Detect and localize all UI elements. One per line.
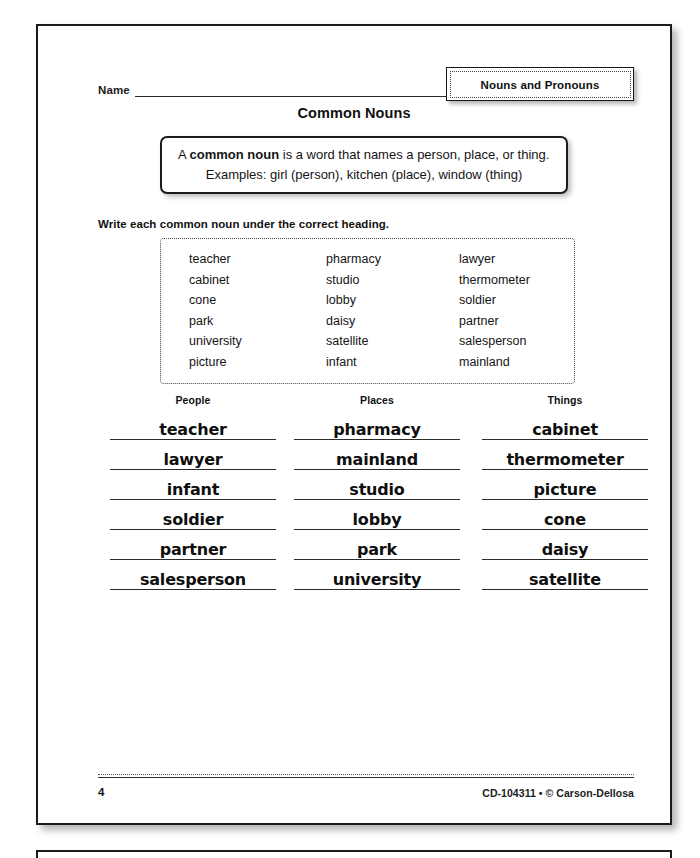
definition-examples: Examples: girl (person), kitchen (place)… (172, 165, 556, 185)
definition-term: common noun (190, 147, 280, 162)
answer-word: satellite (529, 572, 601, 588)
answer-word: lobby (353, 512, 402, 528)
answer-word: cabinet (532, 422, 598, 438)
unit-badge-label: Nouns and Pronouns (481, 79, 600, 91)
word-bank-item: daisy (326, 311, 441, 332)
word-bank-item: university (189, 331, 304, 352)
answer-column-things: Things cabinet thermometer picture cone … (482, 394, 648, 590)
definition-line-1: A common noun is a word that names a per… (172, 145, 556, 165)
answer-row[interactable]: university (294, 560, 460, 590)
word-bank-column-1: teacher cabinet cone park university pic… (161, 249, 304, 372)
answer-word: cone (544, 512, 586, 528)
footer-divider (98, 774, 634, 778)
answer-column-people: People teacher lawyer infant soldier par… (110, 394, 276, 590)
page-title: Common Nouns (38, 105, 670, 121)
name-field-row: Name (98, 83, 448, 97)
answer-column-heading: Things (482, 394, 648, 406)
answer-word: salesperson (140, 572, 246, 588)
answer-row[interactable]: mainland (294, 440, 460, 470)
answer-word: daisy (542, 542, 589, 558)
word-bank-item: lawyer (459, 249, 574, 270)
word-bank-column-3: lawyer thermometer soldier partner sales… (441, 249, 574, 372)
answer-row[interactable]: cabinet (482, 410, 648, 440)
word-bank-item: studio (326, 270, 441, 291)
answer-word: teacher (159, 422, 227, 438)
answer-grid: People teacher lawyer infant soldier par… (38, 394, 700, 590)
definition-prefix: A (178, 147, 190, 162)
answer-word: lawyer (163, 452, 222, 468)
word-bank-item: cone (189, 290, 304, 311)
answer-row[interactable]: partner (110, 530, 276, 560)
answer-row[interactable]: studio (294, 470, 460, 500)
answer-row[interactable]: picture (482, 470, 648, 500)
answer-word: thermometer (506, 452, 623, 468)
worksheet-screenshot: Name Nouns and Pronouns Common Nouns A c… (0, 0, 700, 858)
word-bank: teacher cabinet cone park university pic… (160, 238, 575, 384)
word-bank-item: soldier (459, 290, 574, 311)
definition-box: A common noun is a word that names a per… (160, 136, 568, 194)
word-bank-item: partner (459, 311, 574, 332)
answer-column-places: Places pharmacy mainland studio lobby pa… (294, 394, 460, 590)
word-bank-item: teacher (189, 249, 304, 270)
instruction-text: Write each common noun under the correct… (98, 218, 389, 230)
answer-row[interactable]: lawyer (110, 440, 276, 470)
page-number: 4 (98, 786, 104, 798)
answer-row[interactable]: park (294, 530, 460, 560)
word-bank-item: thermometer (459, 270, 574, 291)
next-page-edge (36, 850, 672, 858)
definition-suffix: is a word that names a person, place, or… (279, 147, 549, 162)
word-bank-item: lobby (326, 290, 441, 311)
answer-word: soldier (163, 512, 223, 528)
answer-row[interactable]: pharmacy (294, 410, 460, 440)
answer-row[interactable]: soldier (110, 500, 276, 530)
word-bank-item: infant (326, 352, 441, 373)
answer-word: picture (534, 482, 597, 498)
name-label: Name (98, 84, 130, 97)
answer-row[interactable]: daisy (482, 530, 648, 560)
answer-word: park (357, 542, 397, 558)
footer-credit: CD-104311 • © Carson-Dellosa (482, 787, 634, 799)
answer-column-heading: Places (294, 394, 460, 406)
word-bank-item: pharmacy (326, 249, 441, 270)
word-bank-item: salesperson (459, 331, 574, 352)
word-bank-item: mainland (459, 352, 574, 373)
answer-row[interactable]: thermometer (482, 440, 648, 470)
word-bank-item: cabinet (189, 270, 304, 291)
answer-row[interactable]: salesperson (110, 560, 276, 590)
answer-row[interactable]: lobby (294, 500, 460, 530)
answer-column-heading: People (110, 394, 276, 406)
answer-word: infant (167, 482, 219, 498)
answer-word: pharmacy (333, 422, 420, 438)
unit-badge: Nouns and Pronouns (446, 67, 634, 101)
word-bank-item: park (189, 311, 304, 332)
worksheet-page: Name Nouns and Pronouns Common Nouns A c… (36, 24, 672, 825)
answer-row[interactable]: satellite (482, 560, 648, 590)
answer-word: university (333, 572, 422, 588)
word-bank-item: picture (189, 352, 304, 373)
answer-row[interactable]: teacher (110, 410, 276, 440)
answer-word: partner (160, 542, 227, 558)
answer-row[interactable]: cone (482, 500, 648, 530)
answer-word: mainland (336, 452, 418, 468)
answer-row[interactable]: infant (110, 470, 276, 500)
name-input-blank[interactable] (135, 83, 448, 97)
answer-word: studio (349, 482, 404, 498)
unit-badge-inner: Nouns and Pronouns (450, 71, 631, 98)
word-bank-column-2: pharmacy studio lobby daisy satellite in… (304, 249, 441, 372)
word-bank-item: satellite (326, 331, 441, 352)
